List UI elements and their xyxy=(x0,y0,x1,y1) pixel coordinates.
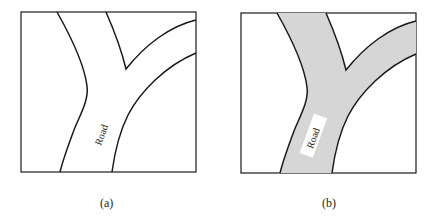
figure-canvas: Road Road xyxy=(0,0,439,219)
road-segmentation-figure: Road Road (a) (b) xyxy=(0,0,439,219)
panel-a: Road xyxy=(21,12,196,172)
panel-a-frame xyxy=(21,12,196,172)
caption-a: (a) xyxy=(100,196,113,211)
caption-b: (b) xyxy=(322,196,336,211)
panel-b: Road xyxy=(241,13,416,173)
